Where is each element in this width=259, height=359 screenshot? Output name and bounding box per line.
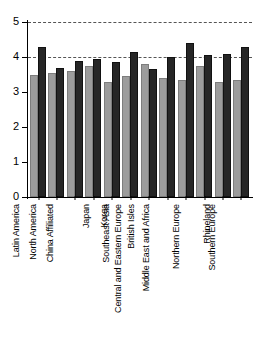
bar-light [122, 76, 130, 197]
bar-light [30, 75, 38, 198]
y-tick-label: 5 [0, 16, 19, 27]
x-tick-label: Central and Eastern Europe [113, 204, 122, 313]
y-tick-label: 4 [0, 51, 19, 62]
bar-light [178, 80, 186, 197]
x-tick-label: Latin America [12, 204, 21, 257]
x-label-slot: Rhineland [215, 200, 232, 358]
y-tick-label: 2 [0, 121, 19, 132]
bar-light [104, 82, 112, 198]
x-tick-label: Northern Europe [172, 204, 181, 269]
x-tick-mark [167, 196, 168, 200]
bar-dark [112, 62, 120, 197]
bar-light [141, 64, 149, 197]
x-tick-mark [204, 196, 205, 200]
x-axis-labels: Latin AmericaNorth AmericaChina Affiliat… [28, 200, 252, 358]
bar-group [178, 22, 195, 197]
x-axis-line [27, 197, 253, 198]
x-tick-mark [56, 196, 57, 200]
bar-group [30, 22, 47, 197]
bar-chart: 012345 Latin AmericaNorth AmericaChina A… [0, 0, 259, 359]
x-tick-mark [130, 196, 131, 200]
x-tick-mark [241, 196, 242, 200]
x-tick-label: China Affiliated [46, 204, 55, 262]
bar-dark [167, 57, 175, 197]
bar-light [48, 73, 56, 197]
x-tick-mark [149, 196, 150, 200]
bar-dark [204, 55, 212, 197]
x-tick-label: Middle East and Africa [142, 204, 151, 291]
bar-group [122, 22, 139, 197]
x-tick-label: Japan [82, 204, 91, 228]
bar-groups [28, 22, 252, 197]
x-label-slot: Southern Europe [233, 200, 250, 358]
bar-dark [130, 52, 138, 197]
bar-light [196, 66, 204, 197]
bar-group [215, 22, 232, 197]
bar-light [215, 82, 223, 198]
bar-group [85, 22, 102, 197]
bar-group [48, 22, 65, 197]
x-tick-mark [75, 196, 76, 200]
x-tick-mark [93, 196, 94, 200]
y-tick-mark [22, 197, 28, 198]
x-tick-label: British Isles [127, 204, 136, 249]
x-tick-mark [186, 196, 187, 200]
y-tick-label: 1 [0, 156, 19, 167]
x-tick-mark [112, 196, 113, 200]
bar-light [159, 78, 167, 197]
bar-dark [149, 69, 157, 197]
bar-group [67, 22, 84, 197]
y-tick-label: 0 [0, 191, 19, 202]
bar-dark [223, 54, 231, 198]
x-tick-label: Southern Europe [208, 204, 217, 271]
bar-dark [75, 61, 83, 198]
bar-group [104, 22, 121, 197]
bar-group [196, 22, 213, 197]
bar-group [159, 22, 176, 197]
bar-light [85, 66, 93, 197]
bar-dark [241, 47, 249, 198]
bar-light [67, 71, 75, 197]
y-tick-label: 3 [0, 86, 19, 97]
x-tick-mark [38, 196, 39, 200]
bar-dark [56, 68, 64, 198]
bar-dark [93, 59, 101, 197]
bar-light [233, 80, 241, 197]
bar-group [141, 22, 158, 197]
x-tick-label: Southeast Asia [101, 204, 110, 263]
bar-dark [38, 47, 46, 198]
bar-dark [186, 43, 194, 197]
x-tick-mark [223, 196, 224, 200]
bar-group [233, 22, 250, 197]
x-tick-label: North America [29, 204, 38, 260]
